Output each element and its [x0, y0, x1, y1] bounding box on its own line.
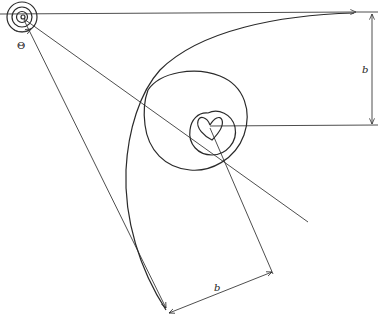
middle-spiral-loop — [144, 71, 247, 170]
top-reference-line — [0, 12, 356, 14]
small-spiral-icon — [7, 2, 37, 32]
bottom-dimension-label: b — [214, 282, 220, 293]
spiral-diagram: Θ b b — [0, 0, 380, 326]
long-tangent-line — [24, 20, 166, 308]
outer-spiral-curve — [126, 13, 354, 310]
bottom-dimension-line — [169, 272, 272, 313]
center-radial-line — [210, 128, 273, 274]
angle-label: Θ — [17, 40, 25, 51]
vertical-dimension-label: b — [362, 64, 368, 75]
diagonal-line — [24, 19, 308, 222]
